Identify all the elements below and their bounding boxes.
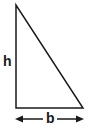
height-label: h — [3, 54, 12, 68]
triangle-diagram: h b — [0, 0, 93, 130]
arrow-left-icon — [15, 116, 23, 123]
base-label: b — [44, 111, 57, 125]
right-triangle-shape — [16, 5, 83, 108]
arrow-right-icon — [76, 116, 84, 123]
